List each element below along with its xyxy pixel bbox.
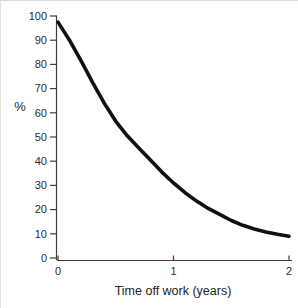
y-tick-label: 80: [35, 58, 47, 70]
x-tick-label: 1: [170, 265, 176, 277]
x-tick-label: 0: [55, 265, 61, 277]
x-axis-ticks: 012: [55, 256, 292, 277]
y-tick-label: 40: [35, 155, 47, 167]
y-tick-label: 50: [35, 131, 47, 143]
y-tick-label: 60: [35, 107, 47, 119]
x-tick-label: 2: [286, 265, 292, 277]
survival-curve: [58, 22, 289, 236]
chart-canvas: 0102030405060708090100 012 % Time off wo…: [1, 1, 298, 308]
x-axis-title: Time off work (years): [115, 284, 232, 298]
y-tick-label: 0: [41, 252, 47, 264]
y-axis-unit-label: %: [14, 99, 26, 114]
y-axis-ticks: 0102030405060708090100: [29, 10, 57, 264]
figure-chart: 0102030405060708090100 012 % Time off wo…: [0, 0, 298, 308]
y-tick-label: 70: [35, 82, 47, 94]
y-tick-label: 90: [35, 34, 47, 46]
y-tick-label: 30: [35, 179, 47, 191]
y-tick-label: 20: [35, 203, 47, 215]
y-tick-label: 10: [35, 228, 47, 240]
y-tick-label: 100: [29, 10, 47, 22]
